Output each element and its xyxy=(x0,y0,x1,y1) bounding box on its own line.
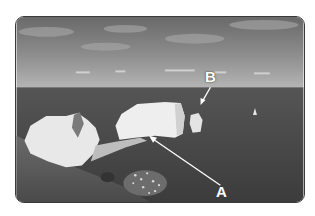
coastal-scene xyxy=(16,17,304,202)
photograph xyxy=(15,16,305,203)
annotation-label-a: A xyxy=(216,184,227,199)
annotation-label-b: B xyxy=(205,69,216,84)
